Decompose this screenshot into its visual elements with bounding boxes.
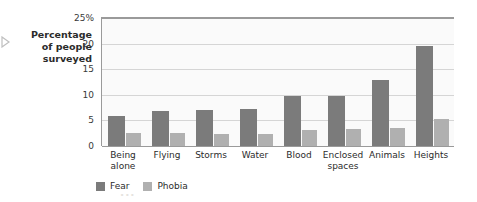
y-axis-tick-label: 10 bbox=[66, 90, 94, 100]
bar-fear bbox=[284, 96, 301, 146]
bar-fear bbox=[240, 109, 257, 146]
legend-label-phobia: Phobia bbox=[157, 181, 187, 191]
y-axis-tick-label: 25% bbox=[66, 13, 94, 23]
bar-phobia bbox=[214, 134, 229, 146]
x-axis-tick-label-line: alone bbox=[101, 161, 145, 172]
bar-phobia bbox=[258, 134, 273, 146]
x-axis-tick-label-line: Being bbox=[101, 150, 145, 161]
bar-phobia bbox=[302, 130, 317, 146]
bar-phobia bbox=[346, 129, 361, 146]
bar-phobia bbox=[390, 128, 405, 146]
x-axis-tick-label: Beingalone bbox=[101, 150, 145, 172]
y-axis-tick-label: 15 bbox=[66, 64, 94, 74]
x-axis-tick-labels: BeingaloneFlyingStormsWaterBloodEnclosed… bbox=[101, 150, 453, 176]
x-axis-tick-label-line: Storms bbox=[189, 150, 233, 161]
chart-legend: Fear Phobia bbox=[96, 181, 188, 191]
y-axis-tick-label: 0 bbox=[66, 141, 94, 151]
plot-area bbox=[101, 18, 454, 146]
x-axis-tick-label: Flying bbox=[145, 150, 189, 161]
bar-group bbox=[322, 18, 366, 146]
y-axis-tick-labels: 0510152025% bbox=[66, 0, 96, 160]
bar-fear bbox=[372, 80, 389, 146]
y-axis-tick-label: 20 bbox=[66, 39, 94, 49]
bar-group bbox=[102, 18, 146, 146]
x-axis-tick-label-line: Animals bbox=[365, 150, 409, 161]
bar-fear bbox=[328, 96, 345, 146]
x-axis-tick-label: Heights bbox=[409, 150, 453, 161]
x-axis-tick-label-line: Flying bbox=[145, 150, 189, 161]
x-axis-tick-label: Storms bbox=[189, 150, 233, 161]
x-axis-tick-label-line: spaces bbox=[321, 161, 365, 172]
legend-swatch-fear bbox=[96, 182, 105, 191]
x-axis-tick-label: Blood bbox=[277, 150, 321, 161]
x-axis-tick-label-line: Enclosed bbox=[321, 150, 365, 161]
bar-group bbox=[410, 18, 454, 146]
legend-item-phobia: Phobia bbox=[143, 181, 187, 191]
y-axis-tick-label: 5 bbox=[66, 115, 94, 125]
legend-item-fear: Fear bbox=[96, 181, 129, 191]
bar-group bbox=[234, 18, 278, 146]
bar-series-container bbox=[102, 18, 454, 147]
bar-fear bbox=[196, 110, 213, 146]
bar-phobia bbox=[170, 133, 185, 146]
bar-group bbox=[146, 18, 190, 146]
bar-fear bbox=[108, 116, 125, 146]
bar-group bbox=[278, 18, 322, 146]
bar-group bbox=[190, 18, 234, 146]
bar-fear bbox=[152, 111, 169, 146]
bar-phobia bbox=[434, 119, 449, 146]
legend-swatch-phobia bbox=[143, 182, 152, 191]
x-axis-tick-label: Enclosedspaces bbox=[321, 150, 365, 172]
bar-group bbox=[366, 18, 410, 146]
x-axis-tick-label: Water bbox=[233, 150, 277, 161]
bar-chart-figure: ... ... ... ... Percentage of people sur… bbox=[0, 0, 477, 202]
x-axis-tick-label-line: Heights bbox=[409, 150, 453, 161]
x-axis-tick-label-line: Water bbox=[233, 150, 277, 161]
bar-phobia bbox=[126, 133, 141, 146]
legend-label-fear: Fear bbox=[110, 181, 129, 191]
x-axis-tick-label-line: Blood bbox=[277, 150, 321, 161]
bar-fear bbox=[416, 46, 433, 146]
x-axis-tick-label: Animals bbox=[365, 150, 409, 161]
